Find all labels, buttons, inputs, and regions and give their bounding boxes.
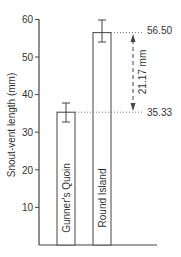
- y-tick-label-20: 20: [22, 165, 34, 176]
- y-tick-label-10: 10: [22, 202, 34, 213]
- y-tick-label-60: 60: [22, 14, 34, 25]
- y-tick-label-40: 40: [22, 89, 34, 100]
- difference-annotation: 21.17 mm: [137, 50, 148, 94]
- bar-gunners-quoin: Gunner's Quoin: [57, 103, 75, 245]
- y-tick-label-30: 30: [22, 127, 34, 138]
- value-annotation-high: 56.50: [147, 25, 172, 36]
- bar-label-round-island: Round Island: [97, 169, 108, 228]
- y-ticks: 10 20 30 40 50 60: [22, 14, 39, 213]
- y-tick-label-50: 50: [22, 52, 34, 63]
- value-annotation-low: 35.33: [147, 107, 172, 118]
- y-axis-label: Snout-vent length (mm): [6, 73, 17, 178]
- bar-chart: 10 20 30 40 50 60 Snout-vent length (mm)…: [0, 0, 181, 257]
- difference-arrow-icon: [131, 34, 136, 111]
- bar-round-island: Round Island: [93, 20, 111, 245]
- bar-label-gunners-quoin: Gunner's Quoin: [61, 163, 72, 233]
